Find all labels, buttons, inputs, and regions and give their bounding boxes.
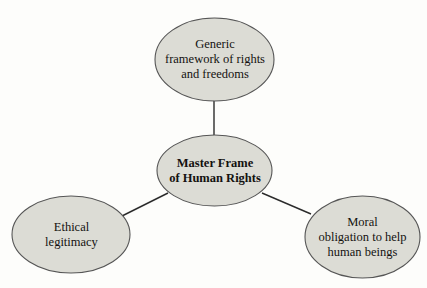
diagram-canvas — [0, 0, 427, 288]
concept-diagram: Generic framework of rights and freedoms… — [0, 0, 427, 288]
node-moral-obligation[interactable] — [305, 196, 420, 278]
connector-hub-to-ethical-legitimacy — [122, 193, 168, 216]
connector-hub-to-moral-obligation — [262, 193, 311, 214]
node-master-frame[interactable] — [157, 135, 272, 206]
node-generic-framework[interactable] — [155, 18, 274, 101]
node-ethical-legitimacy[interactable] — [12, 196, 130, 273]
